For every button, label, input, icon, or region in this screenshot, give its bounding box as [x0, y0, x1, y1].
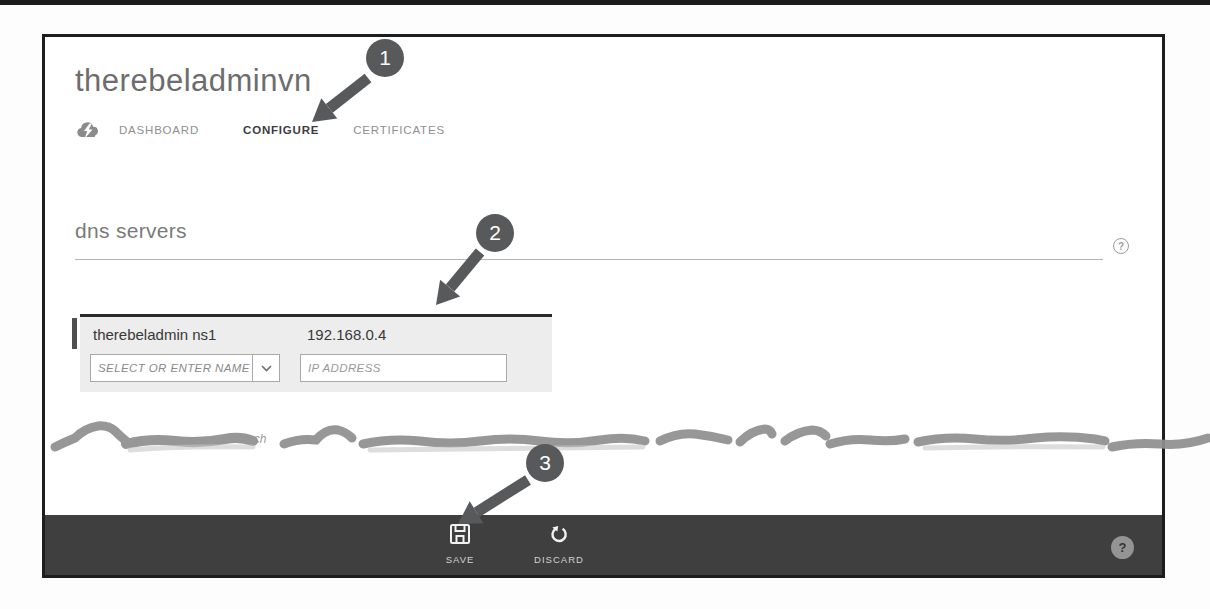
callout-3-arrow [448, 474, 538, 532]
dns-name-cell: therebeladmin ns1 [93, 326, 307, 343]
cloud-service-icon [75, 122, 101, 139]
help-button[interactable]: ? [1111, 536, 1134, 559]
screenshot-frame: therebeladminvn DASHBOARD CONFIGURE CERT… [42, 34, 1165, 578]
ip-address-input[interactable] [300, 354, 507, 382]
row-selection-accent [72, 318, 77, 349]
section-divider [75, 259, 1103, 260]
callout-1-arrow [300, 70, 378, 130]
dns-help-icon[interactable]: ? [1113, 238, 1129, 254]
torn-edge [0, 414, 1210, 466]
dns-servers-heading: dns servers [75, 219, 187, 243]
book-page: therebeladminvn DASHBOARD CONFIGURE CERT… [0, 0, 1210, 609]
discard-label: DISCARD [526, 554, 592, 565]
table-edit-row: SELECT OR ENTER NAME [80, 354, 552, 382]
dns-ip-cell: 192.168.0.4 [307, 326, 386, 343]
service-title: therebeladminvn [75, 63, 312, 99]
dns-name-dropdown-placeholder: SELECT OR ENTER NAME [91, 355, 252, 381]
tab-bar: DASHBOARD CONFIGURE CERTIFICATES [75, 121, 445, 139]
callout-2-arrow [426, 246, 490, 312]
command-bar: SAVE DISCARD ? [45, 515, 1162, 575]
tab-dashboard[interactable]: DASHBOARD [119, 124, 199, 136]
save-label: SAVE [427, 554, 493, 565]
page-top-rule [0, 0, 1210, 5]
dns-servers-table: therebeladmin ns1 192.168.0.4 SELECT OR … [80, 314, 552, 392]
torn-text-fragment: ach [247, 432, 266, 446]
chevron-down-icon[interactable] [252, 355, 279, 381]
dns-name-dropdown[interactable]: SELECT OR ENTER NAME [90, 354, 280, 382]
table-row[interactable]: therebeladmin ns1 192.168.0.4 [80, 317, 552, 351]
